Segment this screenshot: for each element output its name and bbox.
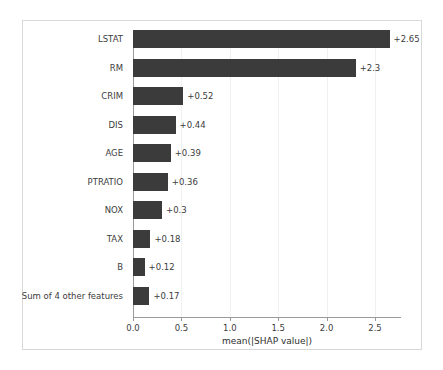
bar xyxy=(133,30,390,48)
bar-value-label: +0.3 xyxy=(166,205,187,215)
bar-value-label: +0.36 xyxy=(172,177,198,187)
x-tick-label: 0.5 xyxy=(175,323,189,333)
x-tick-label: 2.0 xyxy=(320,323,334,333)
shap-bar-chart-figure: LSTATRMCRIMDISAGEPTRATIONOXTAXBSum of 4 … xyxy=(0,0,443,370)
bar-row: +0.17 xyxy=(133,287,390,305)
x-tick-mark xyxy=(375,317,376,321)
x-tick-mark xyxy=(327,317,328,321)
x-tick-label: 0.0 xyxy=(126,323,140,333)
x-tick-label: 2.5 xyxy=(368,323,382,333)
bar xyxy=(133,87,183,105)
bar-row: +2.3 xyxy=(133,59,390,77)
bar-value-label: +0.18 xyxy=(154,234,180,244)
x-tick-mark xyxy=(278,317,279,321)
bar-value-label: +2.65 xyxy=(394,34,420,44)
x-tick-label: 1.0 xyxy=(223,323,237,333)
x-axis-spine xyxy=(133,317,401,318)
y-axis-label: CRIM xyxy=(0,87,127,105)
bar-row: +0.52 xyxy=(133,87,390,105)
y-axis-label: TAX xyxy=(0,230,127,248)
bar-value-label: +0.17 xyxy=(153,291,179,301)
bar xyxy=(133,116,176,134)
x-tick-mark xyxy=(181,317,182,321)
bar-row: +0.44 xyxy=(133,116,390,134)
x-tick-mark xyxy=(133,317,134,321)
bar-row: +0.3 xyxy=(133,201,390,219)
y-axis-label: RM xyxy=(0,59,127,77)
bar-value-label: +0.39 xyxy=(175,148,201,158)
bar-value-label: +2.3 xyxy=(360,63,381,73)
y-axis-label: PTRATIO xyxy=(0,173,127,191)
y-axis-label: B xyxy=(0,258,127,276)
bar-row: +0.36 xyxy=(133,173,390,191)
x-tick-mark xyxy=(230,317,231,321)
y-axis-label: NOX xyxy=(0,201,127,219)
x-tick-label: 1.5 xyxy=(271,323,285,333)
bar-value-label: +0.12 xyxy=(149,262,175,272)
bar xyxy=(133,201,162,219)
y-axis-label: Sum of 4 other features xyxy=(0,287,127,305)
y-axis-label: AGE xyxy=(0,144,127,162)
bar-row: +0.12 xyxy=(133,258,390,276)
bar xyxy=(133,258,145,276)
bar-value-label: +0.44 xyxy=(180,120,206,130)
bar-row: +0.39 xyxy=(133,144,390,162)
bar-row: +2.65 xyxy=(133,30,390,48)
y-axis-label: DIS xyxy=(0,116,127,134)
bar xyxy=(133,144,171,162)
bar-value-label: +0.52 xyxy=(187,91,213,101)
bar xyxy=(133,230,150,248)
plot-area: +2.65+2.3+0.52+0.44+0.39+0.36+0.3+0.18+0… xyxy=(133,30,390,315)
bar xyxy=(133,173,168,191)
bar-row: +0.18 xyxy=(133,230,390,248)
y-axis-category-labels: LSTATRMCRIMDISAGEPTRATIONOXTAXBSum of 4 … xyxy=(0,30,127,315)
bar xyxy=(133,59,356,77)
y-axis-label: LSTAT xyxy=(0,30,127,48)
bar xyxy=(133,287,149,305)
x-axis-title: mean(|SHAP value|) xyxy=(133,336,401,346)
